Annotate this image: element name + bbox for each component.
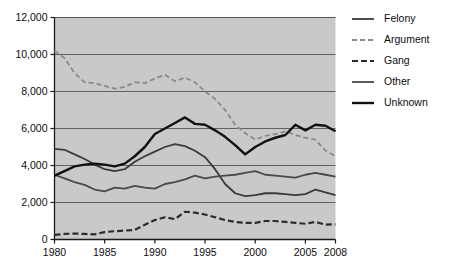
y-tick-label: 2,000 bbox=[21, 196, 47, 208]
line-chart: 02,0004,0006,0008,00010,00012,000 198019… bbox=[0, 0, 451, 270]
x-tick-label: 1985 bbox=[93, 246, 117, 258]
y-tick-label: 12,000 bbox=[15, 11, 47, 23]
x-tick-label: 1980 bbox=[43, 246, 67, 258]
y-tick-label: 8,000 bbox=[21, 85, 47, 97]
x-tick-label: 2008 bbox=[324, 246, 348, 258]
y-tick-label: 4,000 bbox=[21, 159, 47, 171]
legend-label-other: Other bbox=[384, 75, 411, 87]
x-tick-label: 2005 bbox=[294, 246, 318, 258]
legend-label-felony: Felony bbox=[384, 12, 416, 24]
y-tick-label: 6,000 bbox=[21, 122, 47, 134]
legend-label-gang: Gang bbox=[384, 54, 410, 66]
y-tick-label: 0 bbox=[42, 233, 48, 245]
x-tick-label: 1995 bbox=[193, 246, 217, 258]
legend-label-argument: Argument bbox=[384, 33, 430, 45]
legend-label-unknown: Unknown bbox=[384, 96, 428, 108]
chart-container: 02,0004,0006,0008,00010,00012,000 198019… bbox=[0, 0, 451, 270]
x-tick-label: 1990 bbox=[143, 246, 167, 258]
x-tick-label: 2000 bbox=[244, 246, 268, 258]
y-tick-label: 10,000 bbox=[15, 48, 47, 60]
